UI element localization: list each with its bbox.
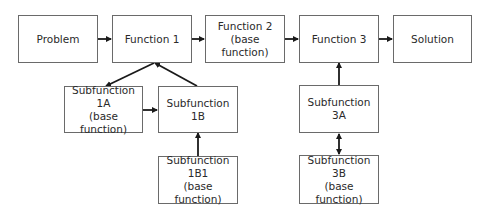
node-label: Subfunction [159, 154, 237, 167]
node-sublabel: (base function) [206, 33, 284, 59]
arrow-sub1b-to-function1 [155, 63, 197, 86]
node-subfunction-1b: Subfunction 1B [158, 86, 238, 133]
node-subfunction-3a: Subfunction 3A [299, 85, 379, 133]
node-label: Function 2 [206, 20, 284, 33]
node-id: 1B1 [159, 167, 237, 180]
node-label: Function 3 [312, 33, 367, 46]
node-function-2: Function 2 (base function) [205, 15, 285, 63]
node-label: Problem [37, 33, 80, 46]
node-id: 3B [300, 167, 378, 180]
node-label: Subfunction [300, 154, 378, 167]
node-label: Subfunction [308, 96, 371, 109]
node-sublabel: (base function) [300, 180, 378, 206]
node-id: 1B [167, 110, 230, 123]
node-function-1: Function 1 [112, 15, 192, 63]
node-sublabel: (base function) [159, 180, 237, 206]
node-label: Subfunction [167, 97, 230, 110]
node-sublabel: (base function) [65, 110, 142, 136]
node-subfunction-1a: Subfunction 1A (base function) [64, 86, 143, 133]
node-id: 1A [65, 97, 142, 110]
node-function-3: Function 3 [299, 15, 379, 63]
node-subfunction-1b1: Subfunction 1B1 (base function) [158, 156, 238, 204]
node-problem: Problem [18, 15, 98, 63]
node-label: Solution [411, 33, 454, 46]
node-label: Subfunction [65, 84, 142, 97]
node-subfunction-3b: Subfunction 3B (base function) [299, 155, 379, 204]
node-id: 3A [308, 109, 371, 122]
node-solution: Solution [393, 15, 472, 63]
node-label: Function 1 [125, 33, 180, 46]
